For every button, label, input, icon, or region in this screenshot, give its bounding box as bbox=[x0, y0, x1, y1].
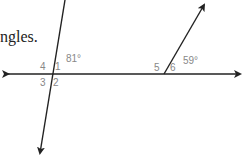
angle-3-label: 3 bbox=[40, 77, 46, 88]
angle-4-label: 4 bbox=[40, 61, 46, 72]
angle-6-measure: 59° bbox=[183, 55, 198, 66]
parallel-lines-transversal-diagram: 4 1 3 2 81° 5 6 59° bbox=[0, 0, 247, 161]
angle-6-label: 6 bbox=[170, 62, 176, 73]
angle-1-label: 1 bbox=[55, 61, 61, 72]
angle-5-label: 5 bbox=[154, 62, 160, 73]
angle-2-label: 2 bbox=[53, 77, 59, 88]
angle-1-measure: 81° bbox=[66, 53, 81, 64]
